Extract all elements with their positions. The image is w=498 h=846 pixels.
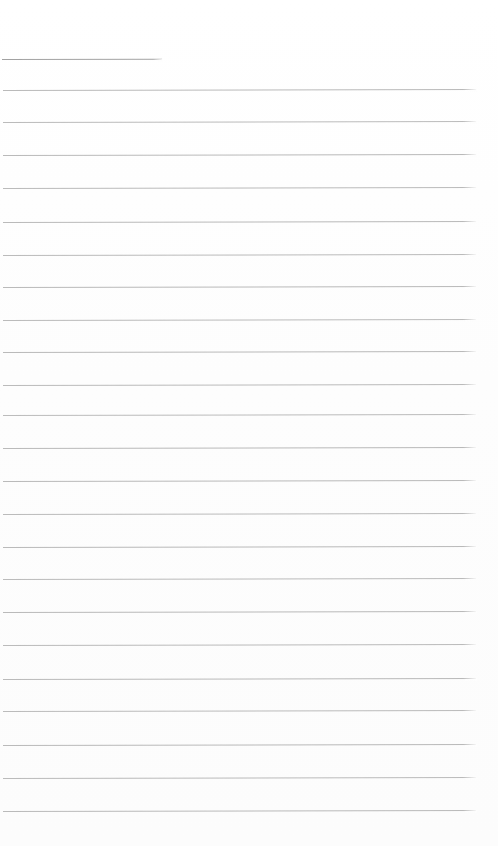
rule-line (3, 644, 476, 646)
rule-line (3, 447, 476, 449)
rule-line (3, 678, 476, 680)
rule-line (3, 777, 476, 779)
rule-line (3, 710, 476, 712)
rule-line (3, 254, 476, 256)
rule-line (3, 154, 476, 156)
rule-line (3, 414, 476, 416)
rule-line (3, 744, 476, 746)
rule-line (3, 286, 476, 288)
ruled-lines-container (0, 0, 498, 846)
rule-line (3, 121, 476, 123)
rule-line (3, 611, 476, 613)
rule-line (3, 513, 476, 515)
rule-line (3, 480, 476, 482)
rule-line (3, 546, 476, 548)
rule-line (3, 578, 476, 580)
rule-line-short (2, 59, 162, 60)
rule-line (3, 89, 476, 91)
notebook-page (0, 0, 498, 846)
rule-line (3, 319, 476, 321)
rule-line (3, 351, 476, 353)
rule-line (3, 384, 476, 386)
bottom-margin-area (0, 811, 498, 846)
rule-line (3, 187, 476, 189)
rule-line (3, 221, 476, 223)
